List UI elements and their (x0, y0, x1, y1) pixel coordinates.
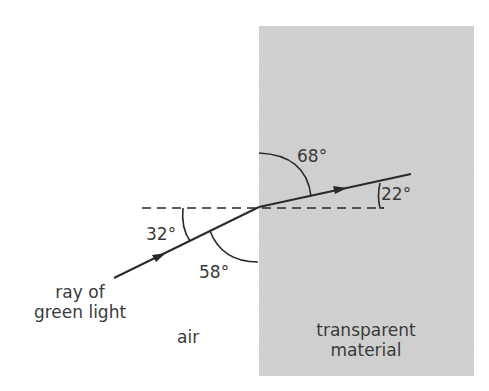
ray-label: ray of green light (30, 282, 130, 322)
angle-label-68: 68° (297, 146, 327, 166)
angle-label-32: 32° (146, 224, 176, 244)
angle-arc-58 (210, 231, 258, 262)
ray-label-line2: green light (30, 302, 130, 322)
incident-arrow-icon (152, 253, 166, 262)
material-label-line2: material (306, 340, 426, 360)
incident-ray (114, 207, 259, 278)
angle-arc-32 (183, 208, 190, 241)
ray-label-line1: ray of (30, 282, 130, 302)
air-label: air (177, 327, 199, 347)
material-label-line1: transparent (306, 320, 426, 340)
angle-label-58: 58° (199, 262, 229, 282)
material-label: transparent material (306, 320, 426, 360)
angle-label-22: 22° (381, 184, 411, 204)
